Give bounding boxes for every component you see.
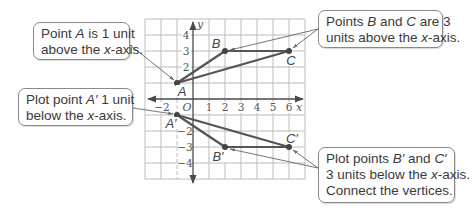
svg-text:2: 2 xyxy=(222,101,229,113)
svg-text:−4: −4 xyxy=(177,157,193,169)
point-b xyxy=(222,48,228,54)
label-b: B xyxy=(212,36,221,51)
callout-plot-a-prime: Plot point A′ 1 unit below the x-axis. xyxy=(18,88,133,126)
svg-text:3: 3 xyxy=(183,45,190,57)
callout-plot-b-c-prime: Plot points B′ and C′ 3 units below the … xyxy=(318,147,455,203)
svg-text:−2: −2 xyxy=(177,125,192,137)
svg-text:3: 3 xyxy=(238,101,245,113)
svg-text:4: 4 xyxy=(183,29,190,41)
label-b-prime: B′ xyxy=(212,149,224,164)
callout-points-b-c: Points B and C are 3 units above the x-a… xyxy=(318,10,443,48)
svg-text:5: 5 xyxy=(270,101,277,113)
x-axis-label: x xyxy=(296,101,303,114)
callout-point-a: Point A is 1 unit above the x-axis. xyxy=(33,22,130,60)
svg-text:1: 1 xyxy=(206,101,213,113)
y-axis-label: y xyxy=(196,18,204,31)
svg-text:2: 2 xyxy=(183,61,190,73)
svg-text:−3: −3 xyxy=(177,141,192,153)
label-a-prime: A′ xyxy=(164,116,177,131)
origin-label: O xyxy=(182,101,191,114)
svg-text:6: 6 xyxy=(286,101,293,113)
label-c: C xyxy=(286,53,296,68)
svg-text:4: 4 xyxy=(254,101,261,113)
label-c-prime: C′ xyxy=(286,131,298,146)
label-a: A xyxy=(177,84,187,99)
